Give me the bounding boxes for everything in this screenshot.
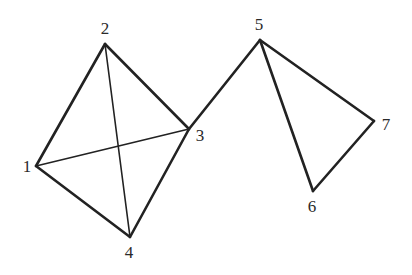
node-label-7: 7 bbox=[382, 115, 391, 134]
edge-6-7 bbox=[313, 121, 374, 191]
edge-3-4 bbox=[130, 129, 189, 237]
node-label-1: 1 bbox=[23, 157, 32, 176]
edge-3-5 bbox=[189, 40, 260, 129]
edge-2-3 bbox=[105, 44, 189, 129]
edge-1-3 bbox=[36, 129, 189, 166]
edge-4-1 bbox=[36, 166, 130, 237]
edge-5-7 bbox=[260, 40, 374, 121]
node-label-5: 5 bbox=[255, 15, 264, 34]
node-label-6: 6 bbox=[308, 197, 317, 216]
node-label-2: 2 bbox=[101, 19, 110, 38]
node-label-4: 4 bbox=[125, 243, 134, 262]
graph-node-labels: 1234567 bbox=[23, 15, 391, 262]
edge-2-4 bbox=[105, 44, 130, 237]
edge-5-6 bbox=[260, 40, 313, 191]
graph-edges bbox=[36, 40, 374, 237]
graph-diagram: 1234567 bbox=[0, 0, 412, 275]
node-label-3: 3 bbox=[196, 126, 205, 145]
edge-1-2 bbox=[36, 44, 105, 166]
